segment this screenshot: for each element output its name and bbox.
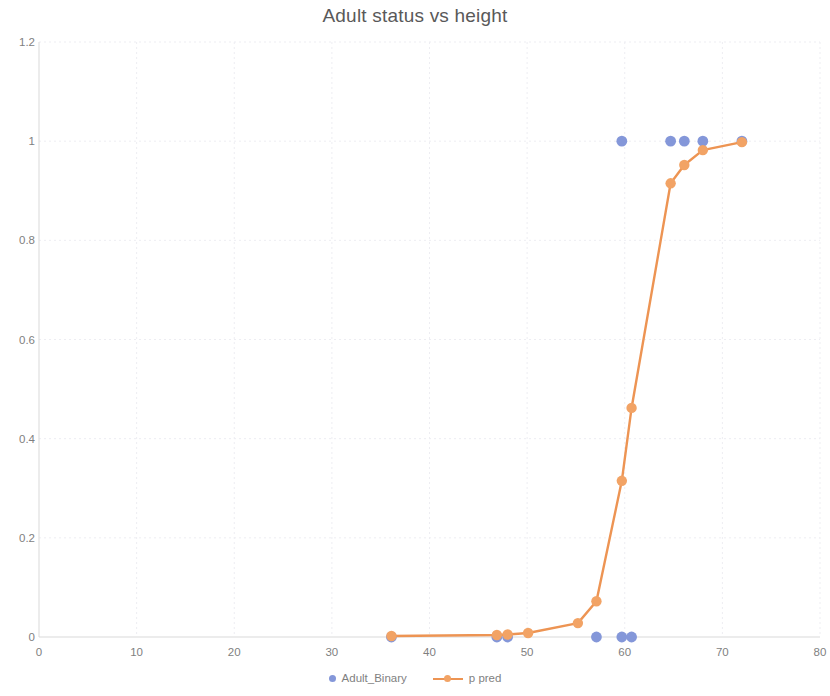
- chart-legend: Adult_Binary p pred: [0, 672, 830, 684]
- legend-item-adult-binary[interactable]: Adult_Binary: [329, 672, 407, 684]
- data-point-p-pred: [502, 629, 512, 639]
- x-axis-tick-label: 50: [507, 646, 547, 658]
- y-axis-tick-label: 0.4: [1, 433, 35, 445]
- legend-label-p-pred: p pred: [469, 672, 502, 684]
- data-point-p-pred: [698, 145, 708, 155]
- data-point-p-pred: [679, 160, 689, 170]
- x-axis-tick-label: 30: [312, 646, 352, 658]
- data-point-p-pred: [492, 630, 502, 640]
- legend-item-p-pred[interactable]: p pred: [433, 672, 502, 684]
- plot-area: [39, 42, 820, 637]
- legend-label-adult-binary: Adult_Binary: [342, 672, 407, 684]
- y-axis-tick-label: 1: [1, 135, 35, 147]
- data-point-adult-binary: [665, 136, 676, 147]
- data-point-p-pred: [737, 137, 747, 147]
- x-axis-tick-label: 80: [800, 646, 830, 658]
- y-axis-tick-label: 0.8: [1, 234, 35, 246]
- series-line-p-pred: [391, 142, 741, 636]
- y-axis-tick-label: 1.2: [1, 36, 35, 48]
- x-axis-tick-labels: 01020304050607080: [39, 646, 820, 666]
- x-axis-tick-label: 70: [702, 646, 742, 658]
- x-axis-tick-label: 20: [214, 646, 254, 658]
- data-point-adult-binary: [616, 136, 627, 147]
- x-axis-tick-label: 0: [19, 646, 59, 658]
- x-axis-tick-label: 10: [117, 646, 157, 658]
- chart-series-layer: [39, 42, 820, 637]
- data-point-p-pred: [591, 596, 601, 606]
- legend-line-marker-icon: [433, 674, 463, 683]
- x-axis-tick-label: 60: [605, 646, 645, 658]
- data-point-adult-binary: [591, 632, 602, 643]
- chart-container: Adult status vs height 00.20.40.60.811.2…: [0, 0, 830, 696]
- data-point-p-pred: [665, 178, 675, 188]
- y-axis-tick-label: 0: [1, 631, 35, 643]
- data-point-p-pred: [617, 476, 627, 486]
- y-axis-tick-labels: 00.20.40.60.811.2: [0, 0, 35, 696]
- legend-line-dot: [444, 675, 451, 682]
- legend-scatter-marker-icon: [329, 675, 336, 682]
- data-point-p-pred: [626, 403, 636, 413]
- chart-title: Adult status vs height: [0, 5, 830, 27]
- y-axis-tick-label: 0.2: [1, 532, 35, 544]
- y-axis-tick-label: 0.6: [1, 334, 35, 346]
- data-point-p-pred: [573, 618, 583, 628]
- data-point-p-pred: [523, 628, 533, 638]
- data-point-adult-binary: [679, 136, 690, 147]
- data-point-adult-binary: [626, 632, 637, 643]
- x-axis-tick-label: 40: [410, 646, 450, 658]
- data-point-adult-binary: [616, 632, 627, 643]
- data-point-p-pred: [386, 631, 396, 641]
